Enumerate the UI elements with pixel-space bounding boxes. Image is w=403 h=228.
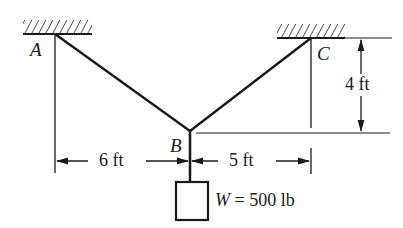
label-weight: W = 500 lb	[215, 191, 295, 209]
label-point-b: B	[170, 136, 182, 155]
label-dim-4ft: 4 ft	[345, 75, 370, 93]
weight-equals: =	[230, 190, 249, 210]
label-point-c: C	[317, 44, 330, 63]
cable-support-free-body-diagram: A C B 6 ft 5 ft 4 ft W = 500 lb	[0, 0, 403, 228]
dim-5ft-arrow-left	[191, 158, 203, 165]
weight-box	[176, 182, 208, 220]
weight-value: 500 lb	[249, 190, 295, 210]
dim-6ft-arrow-right	[177, 158, 189, 165]
dim-4ft-arrow-down	[358, 120, 365, 132]
cable-cb	[190, 38, 311, 131]
weight-symbol: W	[215, 190, 230, 210]
dim-6ft-arrow-left	[56, 158, 68, 165]
weight-block	[176, 182, 208, 220]
label-dim-5ft: 5 ft	[229, 151, 254, 169]
label-dim-6ft: 6 ft	[99, 151, 124, 169]
support-c-hatching	[277, 24, 345, 38]
support-a	[23, 20, 92, 34]
dim-5ft-arrow-right	[298, 158, 310, 165]
cable-ab	[55, 34, 190, 131]
label-point-a: A	[30, 40, 42, 59]
support-c	[277, 24, 345, 38]
support-a-hatching	[23, 20, 92, 34]
diagram-canvas	[0, 0, 403, 228]
dim-4ft-arrow-up	[358, 39, 365, 51]
